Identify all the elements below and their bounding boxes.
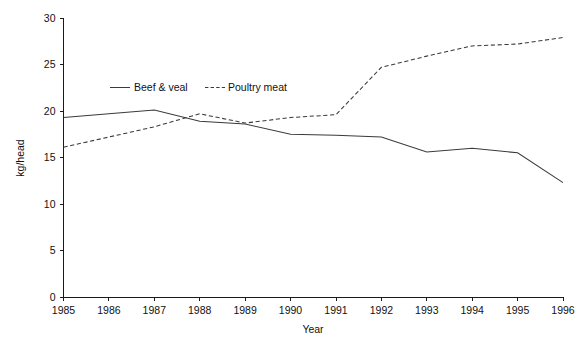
line-chart: 051015202530 198519861987198819891990199… xyxy=(0,0,584,343)
x-tick-label: 1994 xyxy=(461,304,485,316)
y-tick-label: 15 xyxy=(44,151,56,163)
y-tick-label: 0 xyxy=(50,291,56,303)
legend-label-poultry-meat: Poultry meat xyxy=(228,81,287,93)
x-tick-label: 1996 xyxy=(551,304,575,316)
chart-canvas: 051015202530 198519861987198819891990199… xyxy=(0,0,584,343)
x-tick-label: 1991 xyxy=(324,304,348,316)
x-tick-label: 1987 xyxy=(143,304,167,316)
y-tick-label: 20 xyxy=(44,105,56,117)
x-tick-label: 1995 xyxy=(506,304,530,316)
chart-background xyxy=(0,0,584,343)
x-tick-label: 1989 xyxy=(233,304,257,316)
x-tick-label: 1992 xyxy=(370,304,394,316)
x-tick-label: 1993 xyxy=(415,304,439,316)
y-tick-label: 25 xyxy=(44,58,56,70)
x-tick-label: 1988 xyxy=(188,304,212,316)
legend-label-beef-veal: Beef & veal xyxy=(134,81,188,93)
x-tick-label: 1986 xyxy=(97,304,121,316)
x-axis-title: Year xyxy=(302,323,324,335)
y-tick-label: 10 xyxy=(44,198,56,210)
y-axis-title: kg/head xyxy=(14,139,26,177)
x-tick-label: 1990 xyxy=(279,304,303,316)
y-tick-label: 30 xyxy=(44,12,56,24)
y-tick-label: 5 xyxy=(50,244,56,256)
x-tick-label: 1985 xyxy=(52,304,76,316)
